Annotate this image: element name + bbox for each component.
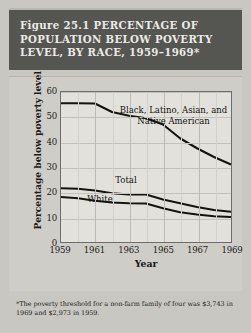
y-tick-label: 40 — [27, 137, 57, 147]
gridline-vertical — [95, 92, 96, 242]
y-tick-label: 60 — [27, 86, 57, 96]
page-title: Figure 25.1 PERCENTAGE OF POPULATION BEL… — [20, 19, 231, 60]
series-annotation-minority: Black, Latino, Asian, and Native America… — [116, 105, 231, 126]
x-axis-label: Year — [60, 258, 232, 269]
y-tick-label: 30 — [27, 162, 57, 172]
y-tick-label: 10 — [27, 213, 57, 223]
series-annotation-white: White — [80, 194, 120, 205]
y-tick-label: 20 — [27, 187, 57, 197]
gridline-vertical — [113, 92, 114, 242]
figure-container: Figure 25.1 PERCENTAGE OF POPULATION BEL… — [0, 0, 251, 333]
series-annotation-total: Total — [106, 175, 146, 186]
x-tick-label: 1969 — [212, 245, 251, 255]
title-banner: Figure 25.1 PERCENTAGE OF POPULATION BEL… — [9, 8, 242, 70]
x-axis-ticks: 195919611963196519671969 — [60, 245, 232, 259]
gridline-horizontal — [61, 219, 231, 220]
gridline-horizontal — [61, 143, 231, 144]
y-axis-ticks: 0102030405060 — [21, 91, 57, 243]
chart-card: Percentage below poverty level 010203040… — [9, 76, 242, 291]
gridline-horizontal — [61, 92, 231, 93]
y-tick-label: 50 — [27, 111, 57, 121]
gridline-horizontal — [61, 168, 231, 169]
footnote: *The poverty threshold for a non-farm fa… — [16, 300, 238, 317]
gridline-vertical — [78, 92, 79, 242]
